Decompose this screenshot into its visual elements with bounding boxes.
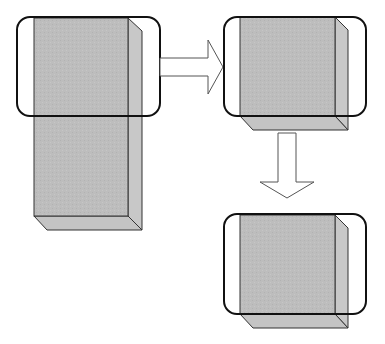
crop-diagram <box>0 0 385 344</box>
tall-box <box>34 18 142 230</box>
short-box-bottom <box>240 215 348 328</box>
arrow-down-icon <box>260 133 314 198</box>
short-box-top <box>240 17 348 130</box>
arrow-right-icon <box>160 40 223 94</box>
